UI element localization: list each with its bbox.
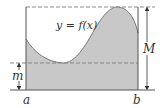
max-label: M [142,42,156,56]
min-label: m [12,69,23,83]
integral-bounds-diagram: y = f(x) M m a b [0,0,160,108]
left-bound-label: a [23,93,30,107]
curve-label: y = f(x) [55,19,97,32]
right-bound-label: b [133,93,141,107]
